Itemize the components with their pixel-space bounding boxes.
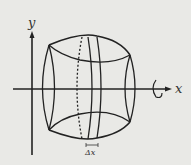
x-axis-arrow-icon — [165, 87, 172, 92]
slice-front-left — [88, 37, 92, 139]
left-end-back — [43, 45, 50, 130]
x-axis-label: x — [175, 81, 183, 96]
slice-front-right — [97, 37, 101, 138]
slice-back-dashed — [77, 37, 82, 139]
y-axis-label: y — [27, 15, 36, 30]
left-end-front — [49, 45, 55, 130]
solid-of-revolution-diagram: y x Δx — [0, 0, 191, 165]
delta-x-label: Δx — [84, 148, 96, 157]
y-axis-arrow-icon — [30, 31, 35, 38]
